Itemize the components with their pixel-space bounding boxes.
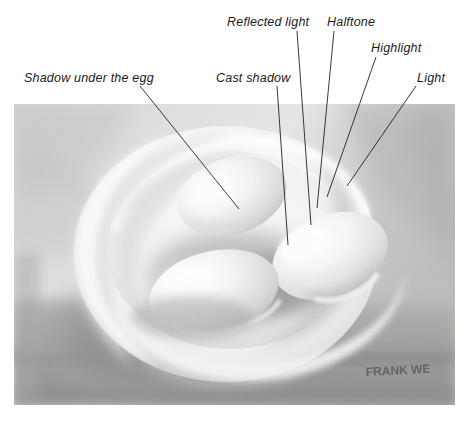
annotation-label-reflected-light: Reflected light: [227, 16, 309, 29]
paper-grain: [14, 104, 455, 405]
annotation-label-cast-shadow: Cast shadow: [216, 72, 290, 85]
annotation-label-light: Light: [417, 72, 445, 85]
annotation-label-highlight: Highlight: [371, 42, 421, 55]
figure-root: FRANK WE Shadow under the egg Cast shado…: [0, 0, 468, 425]
painting-image: FRANK WE: [14, 104, 455, 405]
annotation-label-shadow-under-the-egg: Shadow under the egg: [24, 72, 154, 85]
annotation-label-halftone: Halftone: [327, 16, 375, 29]
painting-canvas: FRANK WE: [14, 104, 455, 405]
